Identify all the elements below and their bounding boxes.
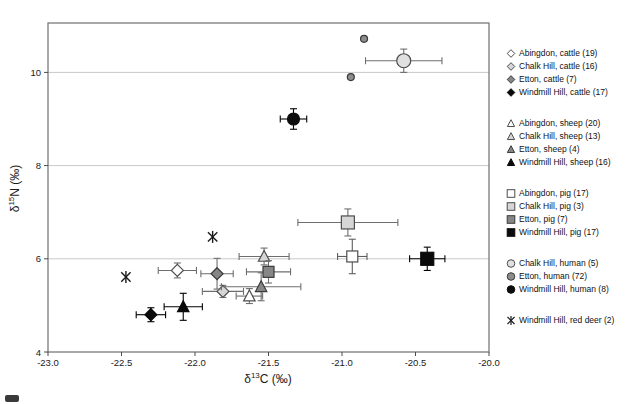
series-etton-cattle — [201, 258, 233, 289]
series-windmill-human — [280, 109, 306, 130]
legend-item-label: Chalk Hill, sheep (13) — [519, 131, 600, 141]
legend-item-label: Etton, sheep (4) — [519, 144, 579, 154]
cropped-caption-fragment — [5, 395, 19, 402]
legend-item-label: Abingdon, pig (17) — [519, 188, 588, 198]
asterisk-marker-icon — [505, 314, 517, 326]
legend-item-etton-human: Etton, human (72) — [505, 269, 633, 282]
legend-item-label: Abingdon, cattle (19) — [519, 48, 597, 58]
legend-group-sheep: Abingdon, sheep (20)Chalk Hill, sheep (1… — [505, 116, 633, 168]
legend-item-windmill-human: Windmill Hill, human (8) — [505, 282, 633, 295]
legend-group-cattle: Abingdon, cattle (19)Chalk Hill, cattle … — [505, 46, 633, 98]
y-axis-label: δ15N (‰) — [7, 144, 22, 234]
square-marker-icon — [505, 200, 517, 212]
series-windmill-reddeer — [121, 231, 217, 283]
series-abingdon-pig — [338, 239, 367, 273]
legend-item-label: Windmill Hill, red deer (2) — [519, 315, 614, 325]
y-axis-label-isotope: 15 — [7, 197, 16, 206]
legend-item-windmill-pig: Windmill Hill, pig (17) — [505, 225, 633, 238]
legend-item-abingdon-sheep: Abingdon, sheep (20) — [505, 116, 633, 129]
legend-item-windmill-reddeer: Windmill Hill, red deer (2) — [505, 313, 633, 326]
legend-item-etton-pig: Etton, pig (7) — [505, 212, 633, 225]
legend-item-abingdon-cattle: Abingdon, cattle (19) — [505, 46, 633, 59]
x-tick-label: -20.5 — [405, 357, 427, 368]
series-etton-pig — [246, 261, 290, 283]
x-axis-label-isotope: 13 — [251, 371, 260, 380]
y-tick-label: 6 — [36, 253, 41, 264]
circle-marker-icon — [505, 257, 517, 269]
triangle-marker-icon — [505, 117, 517, 129]
triangle-marker-icon — [505, 130, 517, 142]
isotope-scatter-figure: -23.0-22.5-22.0-21.5-21.0-20.5-20.046810… — [0, 0, 634, 404]
legend-item-chalkhill-sheep: Chalk Hill, sheep (13) — [505, 129, 633, 142]
x-tick-label: -21.0 — [331, 357, 353, 368]
legend-item-label: Windmill Hill, cattle (17) — [519, 87, 608, 97]
legend-item-label: Etton, human (72) — [519, 271, 587, 281]
series-abingdon-cattle — [158, 263, 196, 278]
y-axis-label-unit: N (‰) — [8, 165, 22, 197]
y-tick-label: 8 — [36, 160, 41, 171]
legend-item-label: Windmill Hill, sheep (16) — [519, 157, 611, 167]
legend-group-red-deer: Windmill Hill, red deer (2) — [505, 313, 633, 326]
legend-item-abingdon-pig: Abingdon, pig (17) — [505, 186, 633, 199]
legend: Abingdon, cattle (19)Chalk Hill, cattle … — [505, 46, 633, 344]
x-tick-label: -23.0 — [37, 357, 59, 368]
x-tick-label: -22.5 — [111, 357, 133, 368]
series-windmill-pig — [410, 247, 445, 270]
circle-marker-icon — [505, 270, 517, 282]
legend-group-pig: Abingdon, pig (17)Chalk Hill, pig (3)Ett… — [505, 186, 633, 238]
legend-item-label: Windmill Hill, pig (17) — [519, 227, 599, 237]
legend-item-windmill-cattle: Windmill Hill, cattle (17) — [505, 85, 633, 98]
y-tick-label: 10 — [30, 67, 41, 78]
legend-item-label: Etton, cattle (7) — [519, 74, 577, 84]
diamond-marker-icon — [505, 73, 517, 85]
legend-item-label: Windmill Hill, human (8) — [519, 284, 609, 294]
triangle-marker-icon — [505, 143, 517, 155]
legend-item-chalkhill-pig: Chalk Hill, pig (3) — [505, 199, 633, 212]
legend-item-label: Abingdon, sheep (20) — [519, 118, 600, 128]
circle-marker-icon — [505, 283, 517, 295]
triangle-marker-icon — [505, 156, 517, 168]
legend-item-chalkhill-cattle: Chalk Hill, cattle (16) — [505, 59, 633, 72]
square-marker-icon — [505, 226, 517, 238]
legend-item-label: Chalk Hill, pig (3) — [519, 201, 584, 211]
series-chalkhill-human — [366, 49, 442, 72]
x-tick-label: -21.5 — [258, 357, 280, 368]
legend-item-label: Etton, pig (7) — [519, 214, 568, 224]
series-windmill-cattle — [136, 308, 165, 322]
legend-item-label: Chalk Hill, human (5) — [519, 258, 598, 268]
square-marker-icon — [505, 187, 517, 199]
x-tick-label: -20.0 — [478, 357, 500, 368]
x-axis-label: δ13C (‰) — [208, 371, 328, 386]
series-etton-human — [347, 35, 367, 80]
x-axis-label-unit: C (‰) — [260, 372, 292, 386]
diamond-marker-icon — [505, 47, 517, 59]
legend-item-etton-cattle: Etton, cattle (7) — [505, 72, 633, 85]
series-chalkhill-sheep — [239, 248, 289, 265]
x-axis-label-delta: δ — [244, 372, 251, 386]
legend-item-windmill-sheep: Windmill Hill, sheep (16) — [505, 155, 633, 168]
legend-item-label: Chalk Hill, cattle (16) — [519, 61, 597, 71]
diamond-marker-icon — [505, 60, 517, 72]
legend-item-chalkhill-human: Chalk Hill, human (5) — [505, 256, 633, 269]
y-tick-label: 4 — [36, 347, 41, 358]
legend-item-etton-sheep: Etton, sheep (4) — [505, 142, 633, 155]
diamond-marker-icon — [505, 86, 517, 98]
series-chalkhill-pig — [298, 209, 398, 236]
x-tick-label: -22.0 — [184, 357, 206, 368]
series-windmill-sheep — [164, 293, 202, 320]
legend-group-human: Chalk Hill, human (5)Etton, human (72)Wi… — [505, 256, 633, 295]
y-axis-label-delta: δ — [8, 206, 22, 213]
square-marker-icon — [505, 213, 517, 225]
